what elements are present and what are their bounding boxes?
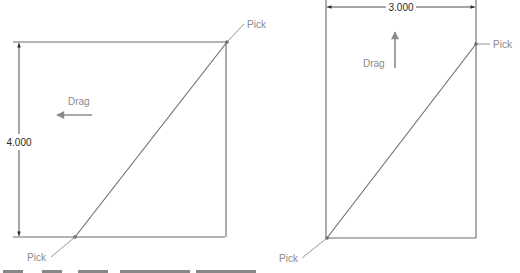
left-figure: 4.000 Pick Pick Drag xyxy=(6,19,266,263)
right-pick-leader-bottom xyxy=(302,238,327,258)
right-pick-label-bottom: Pick xyxy=(279,253,299,264)
right-dimension-value: 3.000 xyxy=(388,2,413,13)
left-pick-label-bottom: Pick xyxy=(27,252,47,263)
left-drag-label: Drag xyxy=(68,96,90,107)
left-diagonal-line xyxy=(75,42,227,237)
left-dimension-value: 4.000 xyxy=(6,137,31,148)
diagram-canvas: 4.000 Pick Pick Drag 3.000 Pick P xyxy=(0,0,520,273)
right-drag-label: Drag xyxy=(363,58,385,69)
left-pick-label-top: Pick xyxy=(247,19,267,30)
right-figure: 3.000 Pick Pick Drag xyxy=(279,0,513,264)
right-pick-label-top: Pick xyxy=(493,39,513,50)
left-pick-leader-bottom xyxy=(51,237,75,257)
right-diagonal-line xyxy=(327,44,476,238)
left-pick-leader-top xyxy=(227,24,244,42)
